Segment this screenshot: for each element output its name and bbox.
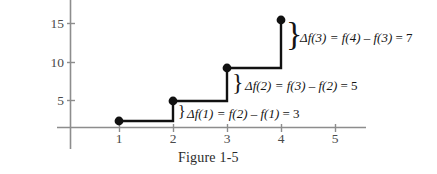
x-tick-label-1: 1 xyxy=(109,132,129,146)
annotation-delta-f-3-expression: f(4) – f(3) xyxy=(342,30,393,45)
annotation-delta-f-1-expression: f(2) – f(1) xyxy=(229,106,280,121)
annotation-delta-f-2-expression: f(3) – f(2) xyxy=(287,78,338,93)
data-point-f2 xyxy=(169,97,178,106)
brace-delta-f-2: } xyxy=(232,70,244,94)
step-function-plot xyxy=(0,0,437,174)
y-tick-label-15: 15 xyxy=(38,17,64,31)
data-point-f3 xyxy=(223,64,232,73)
y-tick-label-10: 10 xyxy=(38,56,64,70)
annotation-delta-f-3-value: = 7 xyxy=(392,30,412,45)
annotation-delta-f-2-value: = 5 xyxy=(337,78,357,93)
annotation-delta-f-3-symbol: Δf(3) = xyxy=(300,30,342,45)
figure-1-5: 15 10 5 1 2 3 4 5 } Δf(1) = f(2) – f(1) … xyxy=(0,0,437,174)
annotation-delta-f-2: Δf(2) = f(3) – f(2) = 5 xyxy=(245,79,358,92)
annotation-delta-f-1-value: = 3 xyxy=(279,106,299,121)
x-tick-label-3: 3 xyxy=(217,132,237,146)
figure-caption: Figure 1-5 xyxy=(178,150,239,166)
annotation-delta-f-1: Δf(1) = f(2) – f(1) = 3 xyxy=(187,107,300,120)
annotation-delta-f-3: Δf(3) = f(4) – f(3) = 7 xyxy=(300,31,413,44)
data-point-f4 xyxy=(277,16,286,25)
annotation-delta-f-2-symbol: Δf(2) = xyxy=(245,78,287,93)
brace-delta-f-1: } xyxy=(178,104,186,120)
data-point-f1 xyxy=(115,117,124,126)
x-tick-label-4: 4 xyxy=(271,132,291,146)
x-tick-label-5: 5 xyxy=(325,132,345,146)
y-tick-label-5: 5 xyxy=(38,94,64,108)
x-tick-label-2: 2 xyxy=(163,132,183,146)
annotation-delta-f-1-symbol: Δf(1) = xyxy=(187,106,229,121)
